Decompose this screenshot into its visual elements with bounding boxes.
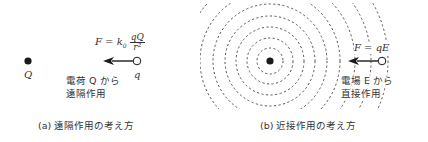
test-charge-label: q [134, 69, 140, 81]
coulomb-force-formula: F = k0 qQ r² [95, 33, 145, 52]
description-line-2: 遠隔作用 [66, 88, 106, 100]
formula-lhs: F = k [95, 36, 123, 47]
caption-b: (b) 近接作用の考え方 [260, 118, 356, 132]
panel-action-at-distance: Q q F = k0 qQ r² 電荷 Q から 遠隔作用 (a) 遠隔作用の考… [0, 0, 214, 142]
description-line-1: 電荷 Q から [66, 75, 120, 87]
formula-subscript: 0 [123, 42, 127, 49]
source-charge-dot [24, 57, 31, 64]
test-charge-circle [378, 57, 386, 65]
test-charge-circle [133, 57, 141, 65]
description-line-2: 直接作用 [341, 88, 381, 100]
source-charge-label: Q [24, 69, 32, 81]
description-line-1: 電場 E から [341, 75, 393, 87]
source-charge-dot [266, 57, 273, 64]
formula-denominator: r² [130, 43, 145, 52]
panel-field-action: F = qE 電場 E から 直接作用 (b) 近接作用の考え方 [200, 0, 428, 142]
formula-fraction: qQ r² [130, 33, 145, 52]
field-ring [200, 0, 340, 131]
caption-a: (a) 遠隔作用の考え方 [38, 118, 134, 132]
field-force-formula: F = qE [354, 42, 389, 54]
